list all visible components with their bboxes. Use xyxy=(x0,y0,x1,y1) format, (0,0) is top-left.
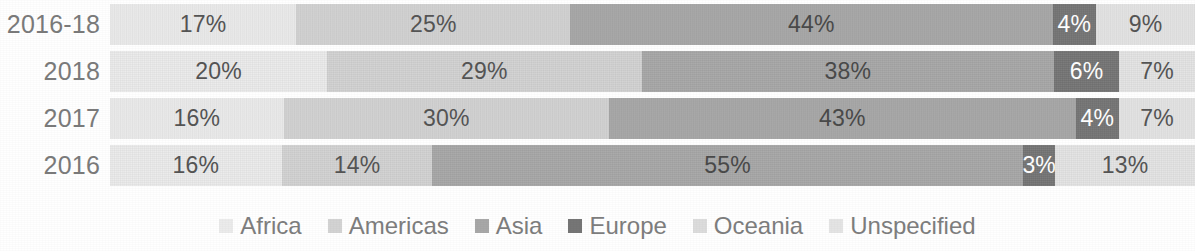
bar-segment-americas: 30% xyxy=(284,98,610,139)
segment-value-label: 38% xyxy=(824,60,871,83)
segment-value-label: 4% xyxy=(1058,13,1092,36)
stacked-bar: 17%25%44%4%9% xyxy=(110,4,1195,45)
bar-segment-asia: 44% xyxy=(570,4,1052,45)
bar-segment-africa: 16% xyxy=(110,98,284,139)
row-category-label: 2017 xyxy=(0,106,110,131)
legend-item-europe[interactable]: Europe xyxy=(568,214,666,238)
segment-value-label: 20% xyxy=(195,60,242,83)
chart-row: 201616%14%55%3%13% xyxy=(0,145,1195,186)
bar-segment-africa: 17% xyxy=(110,4,296,45)
bar-segment-europe: 3% xyxy=(1023,145,1055,186)
segment-value-label: 14% xyxy=(334,154,381,177)
legend-swatch-icon xyxy=(219,219,233,233)
bar-segment-americas: 29% xyxy=(327,51,642,92)
legend-label: Unspecified xyxy=(850,214,975,238)
legend-item-asia[interactable]: Asia xyxy=(475,214,543,238)
bar-segment-unspecified: 7% xyxy=(1119,51,1195,92)
segment-value-label: 17% xyxy=(180,13,227,36)
chart-row: 201716%30%43%4%7% xyxy=(0,98,1195,139)
legend-swatch-icon xyxy=(568,219,582,233)
legend-item-oceania[interactable]: Oceania xyxy=(693,214,803,238)
row-category-label: 2018 xyxy=(0,59,110,84)
segment-value-label: 9% xyxy=(1129,13,1163,36)
segment-value-label: 16% xyxy=(173,107,220,130)
legend-item-americas[interactable]: Americas xyxy=(328,214,449,238)
bar-segment-europe: 4% xyxy=(1053,4,1097,45)
bar-segment-asia: 55% xyxy=(432,145,1023,186)
segment-value-label: 4% xyxy=(1081,107,1115,130)
bar-segment-americas: 25% xyxy=(296,4,570,45)
segment-value-label: 7% xyxy=(1140,60,1174,83)
chart-row: 2016-1817%25%44%4%9% xyxy=(0,4,1195,45)
segment-value-label: 55% xyxy=(704,154,751,177)
row-category-label: 2016 xyxy=(0,153,110,178)
bar-segment-europe: 6% xyxy=(1054,51,1119,92)
legend-label: Americas xyxy=(349,214,449,238)
legend-item-unspecified[interactable]: Unspecified xyxy=(829,214,975,238)
legend-swatch-icon xyxy=(475,219,489,233)
segment-value-label: 3% xyxy=(1023,154,1055,177)
legend-swatch-icon xyxy=(693,219,707,233)
legend-swatch-icon xyxy=(328,219,342,233)
stacked-bar-chart: 2016-1817%25%44%4%9%201820%29%38%6%7%201… xyxy=(0,0,1195,251)
bar-segment-unspecified: 7% xyxy=(1119,98,1195,139)
bar-segment-unspecified: 13% xyxy=(1055,145,1195,186)
segment-value-label: 13% xyxy=(1102,154,1149,177)
stacked-bar: 16%14%55%3%13% xyxy=(110,145,1195,186)
segment-value-label: 6% xyxy=(1070,60,1104,83)
segment-value-label: 7% xyxy=(1140,107,1174,130)
legend-label: Africa xyxy=(240,214,301,238)
segment-value-label: 43% xyxy=(819,107,866,130)
bar-segment-asia: 38% xyxy=(642,51,1054,92)
segment-value-label: 25% xyxy=(410,13,457,36)
bar-segment-americas: 14% xyxy=(282,145,432,186)
segment-value-label: 44% xyxy=(788,13,835,36)
segment-value-label: 29% xyxy=(461,60,508,83)
segment-value-label: 16% xyxy=(173,154,220,177)
bar-segment-africa: 20% xyxy=(110,51,327,92)
legend-label: Asia xyxy=(496,214,543,238)
chart-row: 201820%29%38%6%7% xyxy=(0,51,1195,92)
legend-swatch-icon xyxy=(829,219,843,233)
chart-legend: AfricaAmericasAsiaEuropeOceaniaUnspecifi… xyxy=(0,214,1195,238)
legend-item-africa[interactable]: Africa xyxy=(219,214,301,238)
stacked-bar: 20%29%38%6%7% xyxy=(110,51,1195,92)
legend-label: Europe xyxy=(589,214,666,238)
stacked-bar: 16%30%43%4%7% xyxy=(110,98,1195,139)
bar-segment-asia: 43% xyxy=(609,98,1076,139)
bar-segment-africa: 16% xyxy=(110,145,282,186)
row-category-label: 2016-18 xyxy=(0,12,110,37)
legend-label: Oceania xyxy=(714,214,803,238)
bar-segment-europe: 4% xyxy=(1076,98,1119,139)
segment-value-label: 30% xyxy=(423,107,470,130)
bar-segment-unspecified: 9% xyxy=(1096,4,1195,45)
